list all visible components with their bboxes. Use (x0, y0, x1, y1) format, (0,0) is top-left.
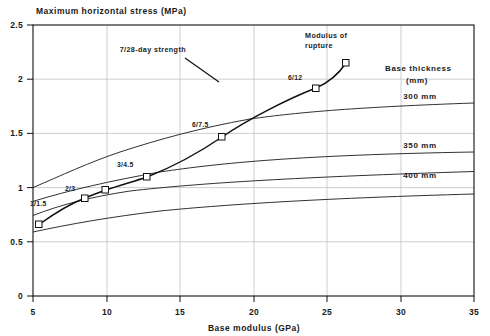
point-label-2-3: 2/3 (65, 185, 75, 192)
chart-screenshot: Maximum horizontal stress (MPa) 0 0.5 (0, 0, 490, 336)
xtick-label-10: 10 (102, 307, 112, 317)
legend-title-base-thickness: Base thickness (385, 64, 452, 73)
legend-subtitle-mm: (mm) (406, 76, 428, 85)
ytick-label-1p5: 1.5 (10, 128, 23, 138)
marker-point-5 (219, 134, 226, 141)
x-axis-ticks (33, 296, 474, 302)
ytick-label-0p5: 0.5 (10, 237, 23, 247)
point-label-6-7p5: 6/7.5 (192, 121, 209, 128)
xtick-label-35: 35 (469, 307, 479, 317)
legend-label-300mm: 300 mm (403, 92, 436, 101)
leader-line-strength (185, 58, 219, 82)
marker-point-1 (36, 221, 43, 228)
marker-point-3 (102, 187, 109, 194)
stress-vs-modulus-chart: Maximum horizontal stress (MPa) 0 0.5 (0, 0, 490, 336)
point-label-3-4p5: 3/4.5 (117, 161, 134, 168)
y-axis-title: Maximum horizontal stress (MPa) (36, 6, 187, 16)
point-label-1-1p5: 1/1.5 (30, 200, 47, 207)
x-axis-title: Base modulus (GPa) (208, 323, 300, 333)
ytick-label-1: 1 (18, 183, 23, 193)
curve-base-thickness-400mm (33, 194, 474, 232)
xtick-label-20: 20 (249, 307, 259, 317)
data-point-markers (36, 60, 350, 228)
annotation-modulus-line2: rupture (305, 41, 333, 50)
point-label-6-12: 6/12 (288, 74, 302, 81)
y-axis-ticks (27, 25, 33, 296)
ytick-label-2p5: 2.5 (10, 20, 23, 30)
xtick-label-30: 30 (396, 307, 406, 317)
legend-label-350mm: 350 mm (403, 141, 436, 150)
xtick-label-5: 5 (30, 307, 35, 317)
marker-point-6 (313, 85, 320, 92)
annotation-7-28-day-strength: 7/28-day strength (120, 45, 186, 54)
ytick-label-2: 2 (18, 74, 23, 84)
ytick-label-0: 0 (18, 291, 23, 301)
xtick-label-15: 15 (175, 307, 185, 317)
xtick-label-25: 25 (322, 307, 332, 317)
marker-point-2 (82, 195, 89, 202)
annotation-modulus-line1: Modulus of (305, 31, 348, 40)
legend-label-400mm: 400 mm (403, 171, 436, 180)
marker-point-7 (343, 60, 350, 67)
marker-point-4 (144, 174, 151, 181)
